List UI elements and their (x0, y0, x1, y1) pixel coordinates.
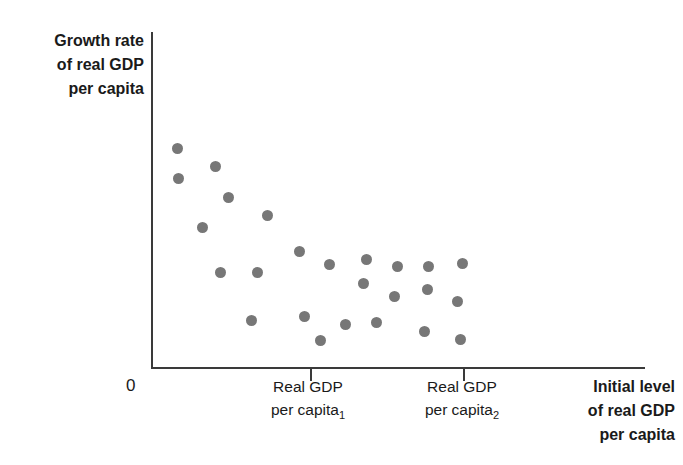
x-axis-title: Initial level of real GDP per capita (520, 375, 675, 447)
scatter-point (294, 246, 305, 257)
scatter-point (262, 210, 273, 221)
scatter-point (197, 222, 208, 233)
scatter-point (389, 291, 400, 302)
scatter-point (340, 319, 351, 330)
scatter-point (210, 161, 221, 172)
x-tick-label-1-subscript: 1 (339, 409, 345, 421)
y-axis-line (151, 32, 153, 369)
x-tick-label-1-line-1: Real GDP (246, 375, 370, 398)
scatter-point (215, 267, 226, 278)
scatter-point (358, 278, 369, 289)
scatter-chart-figure: Growth rate of real GDP per capita 0 Rea… (0, 0, 683, 465)
scatter-point (223, 192, 234, 203)
scatter-point (299, 311, 310, 322)
origin-label: 0 (126, 375, 135, 396)
y-axis-title-line-1: Growth rate (14, 29, 144, 53)
scatter-point (246, 315, 257, 326)
scatter-point (371, 317, 382, 328)
scatter-point (457, 258, 468, 269)
x-tick-label-1-text: per capita (271, 401, 339, 418)
x-axis-title-line-3: per capita (520, 423, 675, 447)
scatter-point (315, 335, 326, 346)
x-axis-title-line-1: Initial level (520, 375, 675, 399)
x-tick-label-1-line-2: per capita1 (246, 398, 370, 427)
x-axis-line (151, 367, 645, 369)
y-axis-title-line-2: of real GDP (14, 53, 144, 77)
x-tick-label-2-text: per capita (425, 401, 493, 418)
scatter-point (423, 261, 434, 272)
y-axis-title: Growth rate of real GDP per capita (14, 29, 144, 101)
scatter-point (455, 334, 466, 345)
scatter-point (452, 296, 463, 307)
scatter-point (392, 261, 403, 272)
scatter-point (173, 173, 184, 184)
scatter-point (252, 267, 263, 278)
x-tick-label-1: Real GDP per capita1 (246, 375, 370, 427)
y-axis-title-line-3: per capita (14, 77, 144, 101)
scatter-point (172, 143, 183, 154)
x-tick-label-2-line-1: Real GDP (400, 375, 524, 398)
x-tick-label-2-line-2: per capita2 (400, 398, 524, 427)
scatter-point (324, 259, 335, 270)
x-tick-label-2: Real GDP per capita2 (400, 375, 524, 427)
scatter-point (361, 254, 372, 265)
scatter-point (422, 284, 433, 295)
x-axis-title-line-2: of real GDP (520, 399, 675, 423)
x-tick-label-2-subscript: 2 (493, 409, 499, 421)
scatter-point (419, 326, 430, 337)
